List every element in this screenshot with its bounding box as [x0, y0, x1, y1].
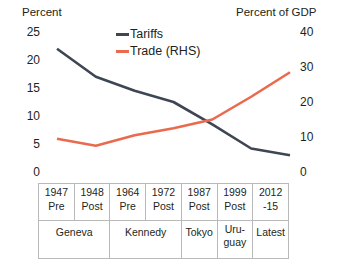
round-cell-6: 2012 -15: [253, 184, 289, 221]
round-year-5: 1999: [218, 187, 253, 198]
legend-item-tariffs: Tariffs: [116, 26, 200, 43]
legend-swatch-tariffs: [116, 33, 129, 36]
round-cell-0: 1947 Pre: [39, 184, 75, 221]
round-phase-0: Pre: [39, 201, 74, 212]
round-year-2: 1964: [110, 187, 145, 198]
legend-swatch-trade: [116, 50, 129, 53]
group-cell-geneva: Geneva: [39, 221, 110, 259]
group-label-uruguay-1: Uru-: [218, 224, 253, 235]
round-phase-1: Post: [75, 201, 110, 212]
round-phase-2: Pre: [110, 201, 145, 212]
series-line-tariffs: [57, 49, 290, 155]
legend-item-trade: Trade (RHS): [116, 43, 200, 60]
chart-legend: Tariffs Trade (RHS): [116, 26, 200, 60]
legend-label-trade: Trade (RHS): [130, 45, 200, 58]
tariffs-trade-chart: Percent Percent of GDP 25 20 15 10 5 0 4…: [0, 0, 337, 260]
group-label-latest: Latest: [253, 227, 288, 238]
round-phase-3: Post: [146, 201, 181, 212]
round-year-6: 2012: [253, 187, 288, 198]
round-phase-6: -15: [253, 201, 288, 212]
series-line-trade: [57, 72, 290, 146]
group-cell-tokyo: Tokyo: [181, 221, 217, 259]
legend-label-tariffs: Tariffs: [130, 28, 163, 41]
round-year-3: 1972: [146, 187, 181, 198]
round-year-4: 1987: [182, 187, 217, 198]
round-cell-5: 1999 Post: [217, 184, 253, 221]
round-cell-4: 1987 Post: [181, 184, 217, 221]
category-table: 1947 Pre 1948 Post 1964 Pre 1972 Post 19…: [38, 183, 289, 259]
group-label-geneva: Geneva: [39, 227, 109, 238]
group-cell-kennedy: Kennedy: [110, 221, 181, 259]
group-cell-latest: Latest: [253, 221, 289, 259]
round-year-1: 1948: [75, 187, 110, 198]
group-label-uruguay-2: guay: [218, 237, 253, 248]
table-row-groups: Geneva Kennedy Tokyo Uru- guay Latest: [39, 221, 289, 259]
round-cell-2: 1964 Pre: [110, 184, 146, 221]
round-phase-4: Post: [182, 201, 217, 212]
table-row-rounds: 1947 Pre 1948 Post 1964 Pre 1972 Post 19…: [39, 184, 289, 221]
group-label-tokyo: Tokyo: [182, 227, 217, 238]
round-year-0: 1947: [39, 187, 74, 198]
round-cell-1: 1948 Post: [74, 184, 110, 221]
group-cell-uruguay: Uru- guay: [217, 221, 253, 259]
group-label-kennedy: Kennedy: [110, 227, 180, 238]
round-cell-3: 1972 Post: [146, 184, 182, 221]
round-phase-5: Post: [218, 201, 253, 212]
